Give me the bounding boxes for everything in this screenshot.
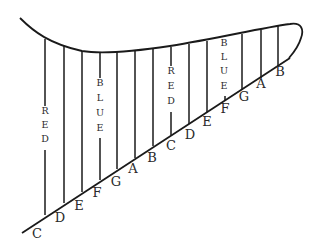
note-label-f: F — [220, 101, 229, 116]
color-word-letter: E — [168, 80, 175, 91]
color-word-letter: E — [42, 119, 49, 130]
note-label-d: D — [55, 210, 65, 225]
color-word-letter: U — [220, 65, 228, 76]
color-word-letter: R — [167, 65, 175, 76]
note-label-g: G — [111, 174, 121, 189]
note-label-d: D — [185, 127, 195, 142]
note-label-g: G — [239, 89, 249, 104]
color-word-red: RED — [167, 65, 175, 106]
color-word-letter: E — [221, 80, 228, 91]
color-word-letter: L — [97, 92, 104, 103]
note-label-c: C — [32, 226, 42, 241]
tuning-diagram: REDBLUEREDBLUE CDEFGABCDEFGAB — [0, 0, 318, 251]
note-label-e: E — [202, 114, 212, 129]
note-label-f: F — [92, 185, 101, 200]
color-word-red: RED — [41, 105, 49, 144]
note-label-a: A — [255, 76, 266, 91]
note-label-a: A — [127, 161, 138, 176]
color-word-blue: BLUE — [96, 77, 104, 133]
base-note-labels: CDEFGABCDEFGAB — [32, 64, 285, 241]
curved-top-edge — [20, 18, 302, 58]
color-word-letter: E — [97, 122, 104, 133]
note-label-c: C — [166, 138, 176, 153]
note-label-e: E — [74, 198, 84, 213]
color-word-letter: D — [167, 95, 175, 106]
color-word-letter: D — [41, 133, 49, 144]
color-word-letter: R — [41, 105, 49, 116]
color-word-letter: B — [221, 37, 228, 48]
diagonal-base-line — [22, 58, 290, 233]
vertical-lines — [45, 25, 278, 215]
color-word-letter: U — [96, 107, 104, 118]
color-word-blue: BLUE — [220, 37, 228, 91]
note-label-b: B — [275, 64, 285, 79]
color-word-letter: B — [97, 77, 104, 88]
color-word-letter: L — [221, 51, 228, 62]
note-label-b: B — [147, 150, 157, 165]
